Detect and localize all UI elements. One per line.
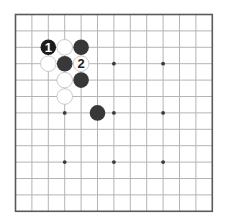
- stone-disc: [73, 72, 89, 88]
- black-stone[interactable]: [57, 56, 73, 72]
- star-point: [63, 111, 67, 115]
- white-stone[interactable]: [41, 56, 57, 72]
- star-point: [161, 62, 165, 66]
- star-point: [161, 111, 165, 115]
- stone-disc: [41, 56, 57, 72]
- star-point: [112, 160, 116, 164]
- star-point: [112, 111, 116, 115]
- black-stone[interactable]: [73, 40, 89, 56]
- move-number-label: 1: [45, 40, 52, 55]
- white-stone[interactable]: 2: [73, 56, 89, 72]
- go-board-canvas[interactable]: 12: [0, 0, 226, 222]
- white-stone[interactable]: [57, 89, 73, 105]
- star-point: [112, 62, 116, 66]
- move-number-label: 2: [77, 56, 84, 71]
- stone-disc: [90, 105, 106, 121]
- black-stone[interactable]: 1: [41, 40, 57, 56]
- black-stone[interactable]: [73, 72, 89, 88]
- stone-disc: [73, 40, 89, 56]
- stone-disc: [57, 40, 73, 56]
- stone-disc: [57, 56, 73, 72]
- star-point: [161, 160, 165, 164]
- star-point: [63, 160, 67, 164]
- go-board[interactable]: 12: [0, 0, 226, 222]
- black-stone[interactable]: [90, 105, 106, 121]
- stone-disc: [57, 89, 73, 105]
- white-stone[interactable]: [57, 72, 73, 88]
- stone-disc: [57, 72, 73, 88]
- white-stone[interactable]: [57, 40, 73, 56]
